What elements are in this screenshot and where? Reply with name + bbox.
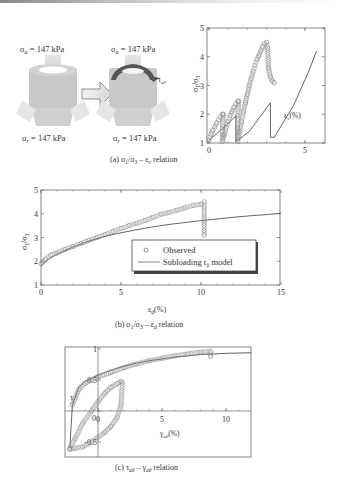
x-tick-label: 15 [277, 288, 285, 297]
y-tick-label: 5 [200, 24, 204, 33]
tau-a-theta-label: τaθ [158, 75, 167, 85]
y-tick-label: 5 [34, 186, 38, 195]
x-tick-label: 0 [96, 415, 100, 424]
chart-b: 05101512345εd(%)σ1/σ3ObservedSubloading … [20, 186, 285, 315]
y-tick-label: 0 [92, 414, 96, 423]
y-tick-label: 1 [93, 345, 97, 354]
model-curve [209, 51, 317, 142]
x-tick-label: 5 [160, 415, 164, 424]
observed-points [207, 40, 277, 144]
x-axis-label: εd(%) [148, 305, 166, 315]
sigma-r-left-label: σr = 147 kPa [22, 133, 66, 144]
specimen-left-illustration [16, 55, 90, 126]
x-tick-label: 0 [207, 146, 211, 155]
hollow-right-arrow-icon [82, 82, 112, 106]
x-tick-label: 5 [303, 146, 307, 155]
chart-a: 0512345εv(%)σ1/σ3 [191, 24, 325, 155]
sigma-a-left-label: σa = 147 kPa [20, 44, 64, 55]
y-tick-label: 3 [34, 234, 38, 243]
caption-c: (c) τaθ – γaθ relation [115, 463, 178, 473]
legend-observed-label: Observed [163, 245, 196, 255]
y-tick-label: 1 [34, 281, 38, 290]
x-axis-label: εv(%) [284, 111, 301, 121]
observed-points [68, 349, 213, 451]
sigma-r-right-label: σr = 147 kPa [113, 133, 157, 144]
legend-model-label: Subloading tij model [163, 257, 233, 268]
y-tick-label: 3 [200, 82, 204, 91]
caption-b: (b) σ1/σ3 – εd relation [115, 320, 183, 330]
y-tick-label: 4 [200, 53, 204, 62]
y-tick-label: 1 [200, 139, 204, 148]
x-tick-label: 10 [222, 415, 230, 424]
y-axis-label: σ1/σ3 [20, 233, 30, 250]
x-tick-label: 5 [119, 288, 123, 297]
x-tick-label: 0 [39, 288, 43, 297]
figure-canvas: σa = 147 kPa σr = 147 kPa σa = 147 kPa σ… [0, 0, 341, 495]
caption-a: (a) σ1/σ3 – εv relation [110, 155, 178, 165]
sigma-a-right-label: σa = 147 kPa [111, 44, 155, 55]
y-axis-label: σ1/σ3 [191, 75, 201, 92]
legend: ObservedSubloading tij model [132, 240, 258, 274]
y-tick-label: 2 [34, 257, 38, 266]
chart-c: 0510-0.500.51γaθ(%)τ [65, 345, 252, 457]
y-tick-label: 2 [200, 110, 204, 119]
y-tick-label: 4 [34, 210, 38, 219]
x-tick-label: 10 [197, 288, 205, 297]
x-axis-label: γaθ(%) [159, 429, 180, 439]
